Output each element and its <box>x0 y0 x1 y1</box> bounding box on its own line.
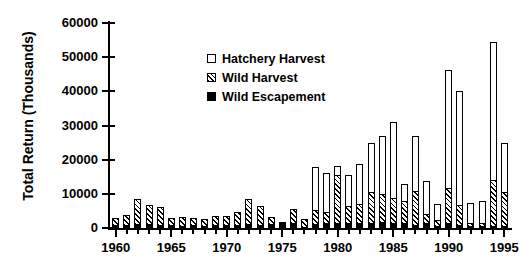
x-tick-mark-major <box>392 230 394 237</box>
bar <box>390 23 397 228</box>
bar-segment-hat <box>467 203 474 222</box>
x-tick-mark-minor <box>470 230 472 234</box>
bar-segment-wild <box>356 204 363 223</box>
bar-segment-wild <box>467 223 474 226</box>
x-tick-label: 1960 <box>86 240 146 255</box>
x-tick-mark-major <box>226 230 228 237</box>
x-tick-mark-minor <box>126 230 128 234</box>
legend-item-label: Wild Harvest <box>222 71 298 85</box>
bar <box>146 23 153 228</box>
x-tick-mark-minor <box>326 230 328 234</box>
bar-segment-hat <box>390 122 397 198</box>
bar-segment-hat <box>323 173 330 211</box>
x-tick-label: 1970 <box>197 240 257 255</box>
bar <box>379 23 386 228</box>
bar-segment-wild <box>123 215 130 225</box>
bar <box>179 23 186 228</box>
bar-segment-wild <box>212 216 219 225</box>
x-tick-mark-minor <box>481 230 483 234</box>
bar <box>368 23 375 228</box>
legend-item: Wild Harvest <box>207 69 325 86</box>
y-axis-title: Total Return (Thousands) <box>20 16 36 216</box>
y-tick-label: 10000 <box>38 187 98 200</box>
legend-item: Hatchery Harvest <box>207 50 325 67</box>
x-tick-mark-minor <box>315 230 317 234</box>
bar-segment-wild <box>456 205 463 224</box>
bar <box>445 23 452 228</box>
legend-item: Wild Escapement <box>207 88 325 105</box>
bar-segment-wild <box>423 214 430 224</box>
bar-segment-wild <box>379 194 386 223</box>
bar <box>401 23 408 228</box>
x-tick-mark-minor <box>414 230 416 234</box>
bar-segment-wild <box>301 219 308 226</box>
bar <box>134 23 141 228</box>
x-tick-mark-minor <box>459 230 461 234</box>
bar <box>157 23 164 228</box>
bar-segment-wild <box>390 198 397 223</box>
chart-root: Total Return (Thousands) 010000200003000… <box>0 0 523 275</box>
bar <box>434 23 441 228</box>
x-tick-mark-minor <box>215 230 217 234</box>
bar-segment-wild <box>490 180 497 226</box>
x-tick-mark-minor <box>259 230 261 234</box>
bar-segment-hat <box>456 91 463 205</box>
bar-segment-wild <box>479 223 486 227</box>
x-tick-mark-minor <box>492 230 494 234</box>
x-tick-mark-major <box>170 230 172 237</box>
x-tick-label: 1995 <box>474 240 523 255</box>
bar <box>501 23 508 228</box>
x-tick-mark-major <box>503 230 505 237</box>
bar-segment-wild <box>190 218 197 226</box>
x-axis-line <box>108 228 512 230</box>
x-tick-mark-minor <box>437 230 439 234</box>
bar-segment-wild <box>368 192 375 222</box>
x-tick-mark-minor <box>270 230 272 234</box>
x-tick-mark-minor <box>137 230 139 234</box>
y-tick-label: 60000 <box>38 16 98 29</box>
legend-item-label: Wild Escapement <box>222 90 325 104</box>
x-tick-label: 1985 <box>363 240 423 255</box>
x-tick-mark-minor <box>359 230 361 234</box>
x-tick-mark-minor <box>426 230 428 234</box>
bar <box>423 23 430 228</box>
bar-segment-wild <box>201 219 208 225</box>
y-tick-label: 40000 <box>38 84 98 97</box>
bar-segment-hat <box>412 136 419 191</box>
bar-segment-wild <box>179 217 186 225</box>
bar-segment-hat <box>479 201 486 223</box>
bar-segment-wild <box>245 199 252 224</box>
bar-segment-wild <box>412 191 419 225</box>
bar-segment-hat <box>368 143 375 193</box>
bar-segment-wild <box>312 210 319 224</box>
bar-segment-wild <box>268 217 275 224</box>
bar-segment-hat <box>334 166 341 175</box>
x-tick-mark-minor <box>192 230 194 234</box>
bar <box>490 23 497 228</box>
x-tick-mark-minor <box>237 230 239 234</box>
bar-segment-hat <box>445 70 452 188</box>
x-tick-mark-minor <box>303 230 305 234</box>
x-tick-label: 1975 <box>252 240 312 255</box>
bar-segment-hat <box>490 42 497 180</box>
bar <box>334 23 341 228</box>
bar-segment-wild <box>501 192 508 225</box>
bar-segment-hat <box>501 143 508 193</box>
x-tick-label: 1990 <box>419 240 479 255</box>
x-tick-label: 1980 <box>308 240 368 255</box>
x-tick-mark-minor <box>248 230 250 234</box>
bar <box>123 23 130 228</box>
y-tick-label: 50000 <box>38 50 98 63</box>
bar-segment-wild <box>434 220 441 225</box>
bar-segment-wild <box>112 218 119 225</box>
bar-segment-hat <box>312 167 319 210</box>
y-tick-label: 30000 <box>38 119 98 132</box>
x-tick-mark-minor <box>181 230 183 234</box>
bar <box>479 23 486 228</box>
bar-segment-hat <box>434 204 441 220</box>
x-tick-label: 1965 <box>141 240 201 255</box>
legend-swatch-icon <box>207 54 216 63</box>
bar-segment-wild <box>146 205 153 224</box>
bar-segment-wild <box>223 216 230 225</box>
bar-segment-wild <box>168 218 175 226</box>
